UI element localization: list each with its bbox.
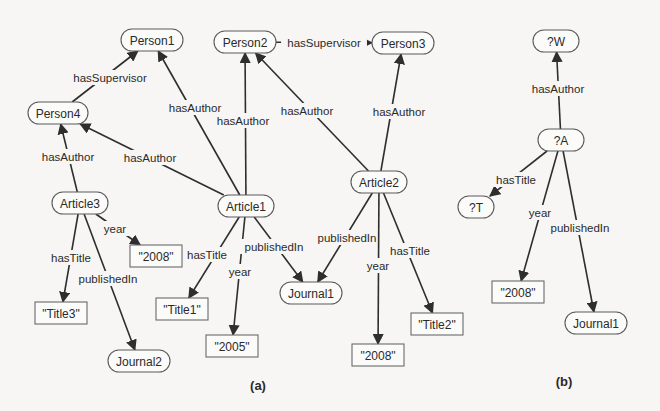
edge-label: year xyxy=(104,223,127,235)
edge-hasauthor-article2-to-person3: hasAuthor xyxy=(369,54,430,171)
literal-node-lit2008b: "2008" xyxy=(352,344,404,366)
edge-label: hasSupervisor xyxy=(287,37,361,49)
node-label: Article3 xyxy=(60,197,100,211)
node-label: Article1 xyxy=(226,200,266,214)
resource-node-article2: Article2 xyxy=(351,171,407,193)
edge-hastitle-article1-to-title1: hasTitle xyxy=(180,217,239,298)
edge-hastitle-article2-to-title2: hasTitle xyxy=(383,193,437,313)
node-label: Person1 xyxy=(130,34,175,48)
edge-label: year xyxy=(229,266,252,278)
edge-label: hasTitle xyxy=(390,245,430,257)
edge-label: hasTitle xyxy=(187,249,227,261)
literal-node-title1: "Title1" xyxy=(156,298,208,320)
node-label: "2008" xyxy=(138,250,173,264)
node-label: Journal1 xyxy=(573,317,619,331)
node-label: "Title3" xyxy=(42,307,79,321)
edge-hassupervisor-person4-to-person1: hasSupervisor xyxy=(67,51,153,102)
node-label: ?A xyxy=(554,134,569,148)
node-label: Article2 xyxy=(359,176,399,190)
node-label: ?T xyxy=(469,201,484,215)
edge-label: publishedIn xyxy=(551,222,610,234)
literal-node-lit2008a: "2008" xyxy=(130,245,182,267)
resource-node-varA: ?A xyxy=(538,129,584,151)
edge-label: publishedIn xyxy=(245,241,304,253)
edge-label: hasTitle xyxy=(496,174,536,186)
resource-node-article3: Article3 xyxy=(52,192,108,214)
edge-label: hasAuthor xyxy=(532,83,585,95)
node-label: ?W xyxy=(547,35,566,49)
panel-a-data-graph: hasSupervisorhasSupervisorhasAuthorhasAu… xyxy=(28,29,463,393)
edge-year-article3-to-lit2008a: year xyxy=(96,214,140,245)
resource-node-journal1b: Journal1 xyxy=(565,312,627,334)
edge-hasauthor-article1-to-person2: hasAuthor xyxy=(213,53,274,195)
node-label: "Title1" xyxy=(163,303,200,317)
node-label: Person4 xyxy=(36,107,81,121)
node-label: "Title2" xyxy=(418,318,455,332)
edge-label: year xyxy=(529,207,552,219)
edge-hasauthor-varA-to-varW: hasAuthor xyxy=(528,52,589,129)
edge-hasauthor-article2-to-person2: hasAuthor xyxy=(256,53,369,171)
panel-b-caption: (b) xyxy=(556,374,573,389)
edge-label: publishedIn xyxy=(79,273,138,285)
edge-year-varA-to-lit2008c: year xyxy=(521,151,558,281)
edge-label: hasAuthor xyxy=(373,106,426,118)
node-label: "2008" xyxy=(360,349,395,363)
resource-node-article1: Article1 xyxy=(218,195,274,217)
node-label: "2008" xyxy=(500,286,535,300)
panel-b-edges: hasAuthorhasTitleyearpublishedIn xyxy=(489,52,617,312)
node-label: "2005" xyxy=(214,340,249,354)
resource-node-varT: ?T xyxy=(458,196,494,218)
edge-hasauthor-article1-to-person4: hasAuthor xyxy=(80,124,224,195)
literal-node-title3: "Title3" xyxy=(35,302,87,324)
edge-publishedin-varA-to-journal1b: publishedIn xyxy=(543,151,616,312)
edge-hasauthor-article3-to-person4: hasAuthor xyxy=(38,124,99,192)
edge-label: hasTitle xyxy=(51,252,91,264)
edge-label: publishedIn xyxy=(318,232,377,244)
resource-node-person4: Person4 xyxy=(28,102,88,124)
edge-year-article1-to-lit2005: year xyxy=(225,217,254,335)
resource-node-varW: ?W xyxy=(533,30,579,52)
edge-hastitle-varA-to-varT: hasTitle xyxy=(489,151,547,196)
node-label: Person2 xyxy=(223,36,268,50)
edge-label: hasAuthor xyxy=(124,152,177,164)
edge-year-article2-to-lit2008b: year xyxy=(363,193,392,344)
edge-label: hasSupervisor xyxy=(73,72,147,84)
resource-node-journal2: Journal2 xyxy=(108,350,170,372)
edge-label: hasAuthor xyxy=(169,102,222,114)
node-label: Journal1 xyxy=(288,287,334,301)
panel-b-query-graph: hasAuthorhasTitleyearpublishedIn ?W?A?T"… xyxy=(458,30,627,389)
resource-node-person1: Person1 xyxy=(121,29,183,51)
edge-label: year xyxy=(367,260,390,272)
literal-node-lit2008c: "2008" xyxy=(492,281,544,303)
edge-label: hasAuthor xyxy=(217,115,270,127)
rdf-graph-figure: hasSupervisorhasSupervisorhasAuthorhasAu… xyxy=(0,0,660,411)
resource-node-person3: Person3 xyxy=(372,32,434,54)
literal-node-lit2005: "2005" xyxy=(206,335,258,357)
resource-node-journal1a: Journal1 xyxy=(280,282,342,304)
node-label: Journal2 xyxy=(116,355,162,369)
edge-hastitle-article3-to-title3: hasTitle xyxy=(44,214,98,302)
resource-node-person2: Person2 xyxy=(214,31,276,53)
edge-label: hasAuthor xyxy=(42,151,95,163)
node-label: Person3 xyxy=(381,37,426,51)
edge-label: hasAuthor xyxy=(281,105,334,117)
panel-a-caption: (a) xyxy=(250,378,266,393)
literal-node-title2: "Title2" xyxy=(411,313,463,335)
edge-hassupervisor-person2-to-person3: hasSupervisor xyxy=(276,35,372,50)
